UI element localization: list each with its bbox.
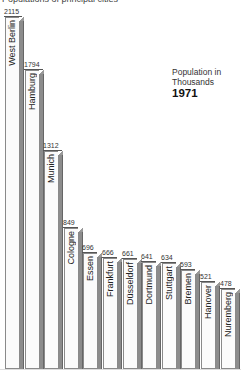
- bar-side-shadow: [157, 265, 161, 369]
- bar-top-edge: [39, 70, 44, 74]
- bar-city-label: Düsseldorf: [125, 262, 135, 305]
- bar: 593Bremen: [181, 270, 200, 369]
- bar-value-label: 666: [102, 249, 114, 257]
- bar-city-label: Bremen: [183, 273, 193, 305]
- legend-line-2: Thousands: [172, 77, 221, 87]
- bar-city-label: Munich: [46, 154, 56, 183]
- bar-side-shadow: [20, 20, 24, 369]
- bar-value-label: 696: [82, 244, 94, 252]
- baseline: [0, 369, 241, 370]
- bar-city-label: Cologne: [66, 231, 76, 265]
- bar-value-label: 521: [200, 273, 212, 281]
- bar-value-label: 1312: [43, 142, 59, 150]
- chart-title: Populations of principal cities: [2, 0, 118, 4]
- bar-value-label: 478: [220, 280, 232, 288]
- bar-value-label: 661: [122, 250, 134, 258]
- bar-top-edge: [58, 151, 63, 155]
- legend-line-1: Population in: [172, 67, 221, 77]
- bar-value-label: 2115: [4, 8, 19, 16]
- bar-value-label: 593: [180, 261, 192, 269]
- bar-city-label: Nuremberg: [223, 292, 233, 337]
- bar-value-label: 641: [141, 253, 153, 261]
- bar-top-edge: [78, 228, 83, 232]
- bar-side-shadow: [118, 261, 122, 369]
- bar-front: [44, 151, 59, 369]
- bar: 1312Munich: [44, 151, 63, 369]
- bar: 696Essen: [83, 253, 102, 369]
- bar-city-label: Dortmund: [144, 265, 154, 305]
- bar-front: [5, 17, 20, 369]
- bar: 521Hanover: [201, 282, 220, 369]
- bar-side-shadow: [196, 273, 200, 369]
- bar-city-label: West Berlin: [7, 20, 17, 66]
- bar-top-edge: [19, 17, 24, 21]
- bar-city-label: Hanover: [203, 285, 213, 319]
- bar: 641Dortmund: [142, 262, 161, 369]
- bar-side-shadow: [216, 285, 220, 369]
- bar-side-shadow: [59, 154, 63, 369]
- bar-value-label: 849: [63, 219, 75, 227]
- bar-top-edge: [235, 289, 240, 293]
- bar: 634Stuttgart: [162, 263, 181, 369]
- bar-side-shadow: [236, 292, 240, 369]
- bar-city-label: Frankfurt: [105, 261, 115, 297]
- bar: 666Frankfurt: [103, 258, 122, 369]
- bar-city-label: Hamburg: [27, 73, 37, 110]
- bar-side-shadow: [98, 256, 102, 369]
- bar-value-label: 634: [161, 254, 173, 262]
- bar-city-label: Essen: [85, 256, 95, 281]
- bar: 2115West Berlin: [5, 17, 24, 369]
- bar-value-label: 1794: [24, 61, 40, 69]
- bar-city-label: Stuttgart: [164, 266, 174, 300]
- legend: Population in Thousands 1971: [172, 67, 221, 99]
- bar: 661Düsseldorf: [123, 259, 142, 369]
- bar: 1794Hamburg: [25, 70, 44, 369]
- bar-front: [25, 70, 40, 369]
- legend-year: 1971: [172, 87, 221, 99]
- bar: 478Nuremberg: [221, 289, 240, 369]
- bar: 849Cologne: [64, 228, 83, 369]
